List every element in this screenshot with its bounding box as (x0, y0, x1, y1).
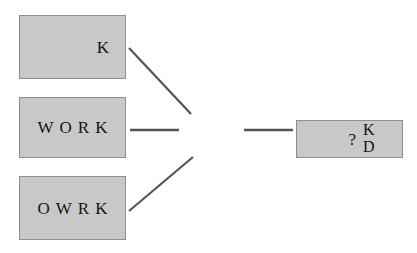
link-k-to-hub-line (129, 48, 191, 114)
stimulus-box-word-work: WORK (19, 97, 126, 158)
response-box: ? K D (296, 120, 403, 158)
response-option-bottom: D (363, 139, 375, 156)
stimulus-box-anagram-owrk: OWRK (19, 176, 126, 240)
response-option-stack: K D (363, 122, 375, 156)
stimulus-label-letter-k: K (97, 39, 125, 56)
response-option-top: K (363, 122, 375, 139)
stimulus-label-word-work: WORK (32, 119, 114, 136)
link-owrk-to-hub-line (129, 157, 193, 211)
response-content: ? K D (324, 122, 374, 156)
question-mark-label: ? (348, 131, 356, 148)
stimulus-label-anagram-owrk: OWRK (32, 200, 114, 217)
diagram-canvas: K WORK OWRK ? K D (0, 0, 417, 253)
stimulus-box-letter-k: K (19, 15, 126, 79)
